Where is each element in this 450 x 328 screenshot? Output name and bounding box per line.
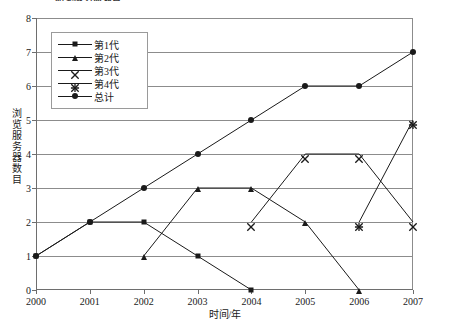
y-tick-label: 5 xyxy=(26,115,31,126)
legend-swatch-x-icon xyxy=(58,65,92,76)
chart-figure: 浏览服务器数目 浏览服务器数目 012345678 20002001200220… xyxy=(0,0,450,328)
x-tick-mark xyxy=(144,290,145,294)
chart-title: 浏览服务器数目 xyxy=(55,0,122,1)
y-tick-label: 2 xyxy=(26,217,31,228)
y-tick-label: 6 xyxy=(26,81,31,92)
legend-item-总计[interactable]: 总计 xyxy=(58,90,141,103)
series-line-第2代 xyxy=(144,188,359,290)
x-tick-mark xyxy=(198,290,199,294)
x-tick-mark xyxy=(251,290,252,294)
y-tick-label: 8 xyxy=(26,13,31,24)
legend-label: 总计 xyxy=(92,89,114,104)
series-line-第4代 xyxy=(359,120,413,222)
y-tick-label: 4 xyxy=(26,149,31,160)
y-tick-label: 0 xyxy=(26,285,31,296)
series-line-第3代 xyxy=(251,154,413,222)
y-tick-label: 7 xyxy=(26,47,31,58)
y-tick-label: 3 xyxy=(26,183,31,194)
x-axis-title: 时间/年 xyxy=(0,306,450,321)
legend-swatch-star-icon xyxy=(58,78,92,89)
x-tick-mark xyxy=(359,290,360,294)
legend-swatch-square-icon xyxy=(58,39,92,50)
x-tick-mark xyxy=(90,290,91,294)
legend-swatch-circle-icon xyxy=(58,91,92,102)
chart-legend: 第1代第2代第3代第4代总计 xyxy=(51,32,148,109)
legend-swatch-triangle-icon xyxy=(58,52,92,63)
y-axis-title: 浏览服务器数目 xyxy=(10,108,23,185)
legend-marker-triangle-icon xyxy=(72,55,78,61)
x-tick-mark xyxy=(413,290,414,294)
y-tick-label: 1 xyxy=(26,251,31,262)
x-tick-mark xyxy=(36,290,37,294)
x-tick-mark xyxy=(305,290,306,294)
